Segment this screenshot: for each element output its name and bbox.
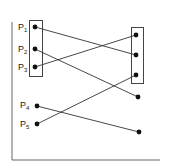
point-p4	[35, 104, 40, 109]
edge-p4	[37, 106, 139, 132]
label-p4: P4	[20, 100, 30, 111]
label-p2: P2	[18, 44, 28, 55]
point-p2	[33, 47, 38, 52]
point-p3	[33, 65, 38, 70]
point-r1	[134, 33, 139, 38]
edge-p2	[35, 49, 138, 97]
point-r3	[134, 73, 139, 78]
point-r2	[134, 53, 139, 58]
point-r4	[136, 95, 141, 100]
label-p5: P5	[20, 119, 30, 130]
label-p3: P3	[18, 62, 28, 73]
point-p5	[35, 122, 40, 127]
label-p1: P1	[18, 22, 28, 33]
point-r5	[137, 130, 142, 135]
edge-p5	[37, 75, 136, 124]
point-p1	[33, 25, 38, 30]
bipartite-diagram: P1 P2 P3 P4 P5	[0, 0, 170, 162]
